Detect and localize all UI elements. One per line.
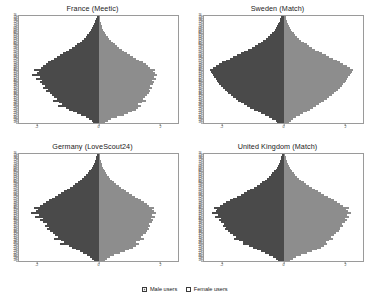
bar-male — [83, 252, 98, 254]
bar-row — [19, 209, 178, 211]
bar-row — [204, 163, 363, 165]
bar-row — [204, 254, 363, 256]
bar-male — [61, 239, 99, 241]
y-tick-mark — [16, 108, 18, 109]
y-tick-mark — [16, 53, 18, 54]
bar-row — [204, 103, 363, 105]
y-tick-mark — [201, 159, 203, 160]
y-tick-mark — [201, 88, 203, 89]
bar-row — [19, 250, 178, 252]
bar-row — [204, 187, 363, 189]
y-tick-mark — [16, 77, 18, 78]
bar-row — [19, 43, 178, 45]
bar-row — [19, 40, 178, 42]
bar-male — [268, 36, 283, 38]
x-tick-label: 0 — [283, 264, 285, 268]
bar-row — [204, 85, 363, 87]
y-tick-mark — [201, 25, 203, 26]
y-tick-mark — [201, 67, 203, 68]
plot-frame — [203, 15, 364, 124]
bar-row — [204, 51, 363, 53]
y-tick-mark — [16, 239, 18, 240]
bar-row — [19, 228, 178, 230]
y-tick-mark — [201, 165, 203, 166]
y-tick-mark — [201, 108, 203, 109]
y-tick-mark — [16, 16, 18, 17]
y-tick-mark — [201, 215, 203, 216]
bar-male — [91, 29, 98, 31]
bar-male — [221, 221, 284, 223]
y-tick-mark — [201, 95, 203, 96]
bar-male — [241, 101, 283, 103]
bar-female — [284, 105, 316, 107]
bar-row — [204, 218, 363, 220]
bar-female — [99, 198, 139, 200]
y-tick-mark — [201, 113, 203, 114]
y-tick-mark — [201, 229, 203, 230]
bar-male — [276, 27, 283, 29]
bar-female — [99, 176, 109, 178]
bar-row — [204, 158, 363, 160]
y-tick-mark — [16, 202, 18, 203]
bar-row — [204, 40, 363, 42]
bar-row — [19, 218, 178, 220]
bar-row — [19, 245, 178, 247]
bar-female — [99, 169, 105, 171]
bar-row — [204, 216, 363, 218]
bar-male — [57, 56, 99, 58]
y-tick-mark — [16, 161, 18, 162]
bar-female — [99, 65, 149, 67]
bar-row — [19, 181, 178, 183]
bar-female — [99, 190, 127, 192]
y-tick-mark — [201, 255, 203, 256]
bar-row — [19, 169, 178, 171]
bar-row — [204, 203, 363, 205]
bar-female — [99, 110, 133, 112]
y-tick-mark — [16, 93, 18, 94]
bar-row — [19, 172, 178, 174]
bar-male — [64, 241, 99, 243]
y-tick-mark — [16, 246, 18, 247]
bar-female — [99, 103, 139, 105]
bar-male — [230, 232, 283, 234]
bar-male — [216, 65, 283, 67]
bar-female — [284, 194, 324, 196]
bar-female — [99, 259, 105, 261]
y-tick-mark — [201, 69, 203, 70]
bar-male — [221, 85, 283, 87]
x-tick-label: -2 — [220, 264, 223, 268]
bar-female — [284, 31, 293, 33]
bar-female — [284, 154, 286, 156]
bar-row — [204, 120, 363, 122]
bar-female — [284, 207, 349, 209]
y-tick-mark — [201, 181, 203, 182]
y-tick-mark — [201, 155, 203, 156]
y-tick-mark — [201, 168, 203, 169]
bar-male — [222, 61, 283, 63]
bar-male — [58, 194, 98, 196]
bar-row — [19, 83, 178, 85]
bar-male — [58, 105, 98, 107]
bar-female — [99, 189, 124, 191]
bar-row — [204, 258, 363, 260]
bar-row — [204, 23, 363, 25]
bar-male — [237, 54, 283, 56]
bar-female — [284, 196, 328, 198]
bar-male — [46, 201, 99, 203]
bar-female — [284, 219, 347, 221]
bar-male — [230, 58, 284, 60]
bar-row — [19, 212, 178, 214]
y-tick-mark — [16, 43, 18, 44]
bar-male — [62, 103, 98, 105]
bar-row — [204, 209, 363, 211]
bar-male — [249, 245, 284, 247]
bar-male — [43, 218, 98, 220]
y-tick-mark — [16, 121, 18, 122]
pyramid-figure: France (Meetic) 181920212223242526272829… — [0, 0, 370, 296]
bar-female — [99, 78, 157, 80]
plot-area: 1819202122232425262728293031323334353637… — [18, 153, 179, 262]
bar-female — [99, 221, 152, 223]
bar-male — [75, 45, 99, 47]
bar-male — [225, 89, 284, 91]
bar-row — [19, 241, 178, 243]
